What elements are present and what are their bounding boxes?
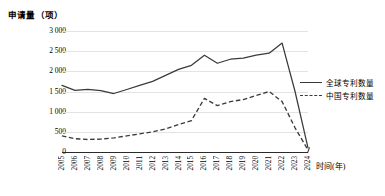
legend-swatch-solid-icon <box>300 78 322 87</box>
x-axis-tick-label: 2013 <box>162 156 170 170</box>
legend-label-china: 中国专利数量 <box>326 90 374 101</box>
x-axis-arrow-tick <box>307 147 310 153</box>
series-line-global <box>62 43 308 148</box>
x-axis-tick-label: 2011 <box>136 156 144 170</box>
x-axis-tick-label: 2010 <box>123 156 131 170</box>
chart-legend: 全球专利数量 中国专利数量 <box>300 76 374 102</box>
legend-label-global: 全球专利数量 <box>326 77 374 88</box>
y-axis-tick-label: 500 <box>26 127 66 136</box>
y-axis-tick-label: 2 500 <box>26 46 66 55</box>
series-line-china <box>62 92 308 150</box>
x-axis-tick-label: 2020 <box>252 156 260 170</box>
legend-swatch-dashed-icon <box>300 91 322 100</box>
x-axis-tick-label: 2022 <box>278 156 286 170</box>
y-axis-tick-label: 1 500 <box>26 87 66 96</box>
legend-item-china: 中国专利数量 <box>300 89 374 102</box>
y-axis-tick-label: 3 000 <box>26 26 66 35</box>
x-axis-tick-label: 2017 <box>213 156 221 170</box>
x-axis-tick-label: 2019 <box>239 156 247 170</box>
series-layer <box>62 31 308 152</box>
y-axis-tick-label: 0 <box>26 147 66 156</box>
legend-item-global: 全球专利数量 <box>300 76 374 89</box>
x-axis-title: 时间(年) <box>316 160 345 171</box>
x-axis-tick-label: 2024 <box>304 156 312 170</box>
x-axis-tick-label: 2014 <box>175 156 183 170</box>
x-axis-tick-label: 2006 <box>71 156 79 170</box>
plot-area <box>62 31 308 152</box>
y-axis-title: 申请量（项） <box>8 8 63 20</box>
x-axis-tick-label: 2016 <box>200 156 208 170</box>
x-axis-tick-label: 2021 <box>265 156 273 170</box>
x-axis-tick-label: 2008 <box>97 156 105 170</box>
x-axis-tick-label: 2005 <box>58 156 66 170</box>
x-axis-tick-label: 2015 <box>187 156 195 170</box>
x-axis-tick-label: 2007 <box>84 156 92 170</box>
y-axis-tick-label: 1 000 <box>26 107 66 116</box>
patent-trend-chart: 申请量（项） 3 0002 5002 0001 5001 0005000 200… <box>0 0 385 196</box>
x-axis-line <box>62 152 308 153</box>
x-axis-tick-label: 2023 <box>291 156 299 170</box>
y-axis-tick-label: 2 000 <box>26 66 66 75</box>
x-axis-tick-label: 2012 <box>149 156 157 170</box>
x-axis-tick-label: 2009 <box>110 156 118 170</box>
x-axis-tick-label: 2018 <box>226 156 234 170</box>
